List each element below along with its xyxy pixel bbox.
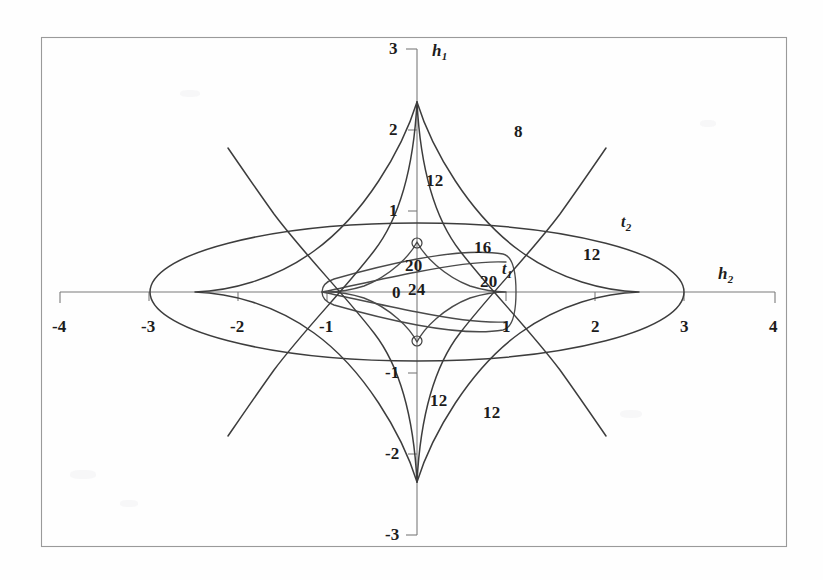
curve-branch-mirror-ul: [228, 102, 417, 436]
y-tick--2: -2: [385, 445, 400, 462]
region-label-24: 24: [408, 281, 425, 298]
region-label-12-bottom-right: 12: [483, 404, 500, 421]
region-label-12-top: 12: [426, 172, 443, 189]
x-tick-1: 1: [502, 318, 511, 335]
x-tick--2: -2: [230, 318, 245, 335]
curve-branch-mirror-ll: [228, 148, 417, 482]
region-label-12-right: 12: [583, 246, 600, 263]
region-label-16: 16: [474, 239, 491, 256]
curve-label-t1: t1: [502, 261, 512, 280]
x-axis-label: h2: [718, 265, 733, 285]
y-tick-2: 2: [389, 121, 398, 138]
y-tick-1: 1: [389, 202, 398, 219]
region-label-8: 8: [514, 123, 523, 140]
curve-label-t2: t2: [621, 214, 631, 233]
x-tick-2: 2: [591, 318, 600, 335]
x-tick--3: -3: [141, 318, 156, 335]
y-tick--3: -3: [385, 526, 400, 543]
x-tick--1: -1: [319, 318, 334, 335]
figure-root: .frame { fill:none; stroke:#9a9a9a; stro…: [0, 0, 823, 580]
origin-label: 0: [392, 284, 401, 301]
curve-branch-ur-ll: [417, 148, 606, 482]
y-axis-label: h1: [432, 42, 447, 62]
region-label-20-upper: 20: [405, 257, 422, 274]
y-tick-3: 3: [389, 40, 398, 57]
x-tick--4: -4: [52, 318, 67, 335]
region-label-12-bottom: 12: [430, 392, 447, 409]
x-tick-3: 3: [680, 318, 689, 335]
x-tick-4: 4: [769, 318, 778, 335]
y-tick--1: -1: [385, 364, 400, 381]
region-label-20-right: 20: [480, 273, 497, 290]
